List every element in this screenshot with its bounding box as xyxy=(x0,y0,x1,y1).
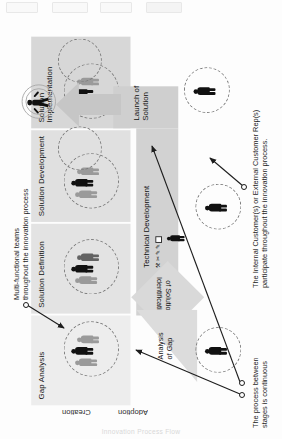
person-figure xyxy=(75,276,98,285)
scan-edge-strip xyxy=(0,0,282,14)
figure-footer-caption: Innovation Process Flow xyxy=(0,428,282,435)
scan-chip xyxy=(52,2,88,13)
annotation-customer-participation: The Internal Customer(s) or External Cus… xyxy=(251,110,269,288)
customer-person-icon xyxy=(205,347,228,356)
person-figure xyxy=(75,190,98,199)
innovation-process-diagram: Gap Analysis Solution Definition Solutio… xyxy=(22,29,261,411)
person-figure xyxy=(77,253,100,262)
pencil-icon: ✎ xyxy=(156,244,162,249)
launch-arrow-icon xyxy=(54,78,123,130)
pencil-icon: ✎ xyxy=(156,250,162,255)
scan-chip xyxy=(100,2,132,13)
annotation-line-2: stages is continuous xyxy=(260,357,269,428)
technical-tools-icon-row: ⚒ ✂ ✎ ✎ xyxy=(155,235,162,267)
celebrating-person-icon xyxy=(27,94,48,109)
technical-development-label: Technical Development xyxy=(142,134,151,268)
figure-page: Gap Analysis Solution Definition Solutio… xyxy=(0,0,282,439)
annotation-multi-functional-teams: Multi-functional teams throughout the in… xyxy=(12,189,30,300)
annotation-line-1: The Internal Customer(s) or External Cus… xyxy=(251,110,260,288)
scan-chip xyxy=(6,2,38,13)
launch-of-solution-label: Launch of Solution xyxy=(132,82,150,120)
person-figure xyxy=(75,358,98,367)
person-figure xyxy=(77,335,100,344)
person-figure xyxy=(71,347,94,356)
stage-label-solution-development: Solution Development xyxy=(37,134,46,216)
scan-chip xyxy=(146,2,182,13)
scissors-icon: ✂ xyxy=(156,256,162,261)
customer-person-icon xyxy=(194,87,217,96)
annotation-line-2: throughout the innovation process xyxy=(21,189,30,300)
customer-person-icon xyxy=(205,203,228,212)
person-figure xyxy=(71,264,94,273)
axis-caption-adoption: Adoption xyxy=(118,408,148,417)
stage-label-gap-analysis: Gap Analysis xyxy=(37,342,46,399)
team-circle-implementation-overlap xyxy=(58,38,102,82)
square-icon xyxy=(155,235,162,242)
annotation-line-2: participate throughout the innovation pr… xyxy=(260,110,269,288)
annotation-line-1: Multi-functional teams xyxy=(12,189,21,300)
axis-caption-creation: Creation xyxy=(62,408,91,417)
person-figure xyxy=(71,178,94,187)
annotation-continuous-process: The process between stages is continuous xyxy=(251,357,269,428)
stage-label-solution-definition: Solution Definition xyxy=(37,241,46,308)
annotation-line-1: The process between xyxy=(251,357,260,428)
person-figure-transition xyxy=(167,235,184,242)
team-circle-development-overlap xyxy=(58,126,102,170)
analysis-of-gap-label: Analysis of Gap xyxy=(157,315,173,359)
